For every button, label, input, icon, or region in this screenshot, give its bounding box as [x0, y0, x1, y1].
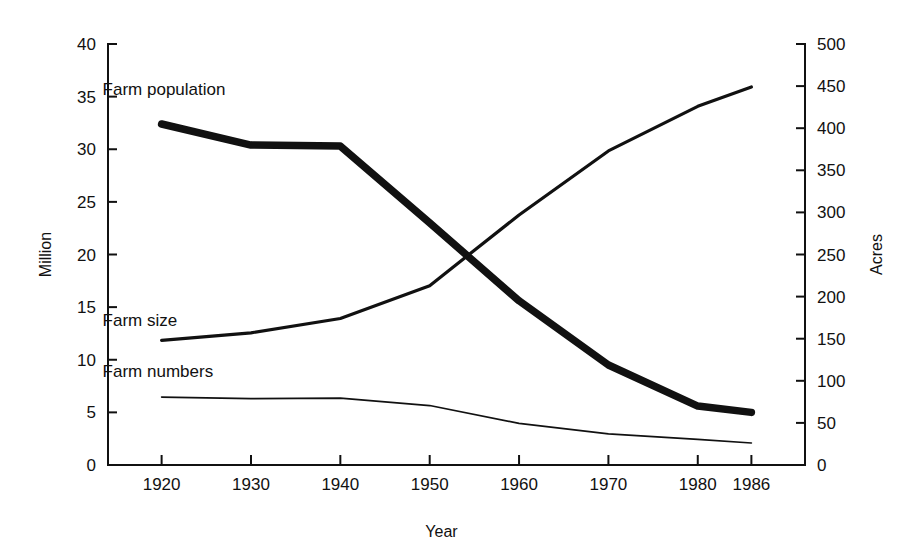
y-right-tick-label: 250	[817, 246, 845, 265]
x-tick-label: 1930	[232, 475, 270, 494]
x-tick-label: 1986	[732, 475, 770, 494]
series-label-farm-numbers: Farm numbers	[103, 362, 214, 381]
x-tick-label: 1940	[321, 475, 359, 494]
series-label-farm-size: Farm size	[103, 311, 178, 330]
y-left-tick-label: 30	[77, 140, 96, 159]
y-left-tick-label: 10	[77, 351, 96, 370]
series-label-farm-population: Farm population	[103, 80, 226, 99]
chart-canvas: 0510152025303540050100150200250300350400…	[0, 0, 924, 549]
y-right-tick-label: 400	[817, 119, 845, 138]
series-line-farm-numbers	[162, 397, 752, 443]
y-left-tick-label: 35	[77, 88, 96, 107]
y-right-tick-label: 50	[817, 414, 836, 433]
tick-labels-group: 0510152025303540050100150200250300350400…	[77, 35, 845, 494]
y-left-tick-label: 5	[87, 403, 96, 422]
y-right-tick-label: 150	[817, 330, 845, 349]
y-right-tick-label: 100	[817, 372, 845, 391]
y-left-tick-label: 20	[77, 246, 96, 265]
axis-frame	[108, 44, 805, 465]
y-right-tick-label: 450	[817, 77, 845, 96]
x-axis-title: Year	[425, 523, 458, 540]
farm-trends-chart: 0510152025303540050100150200250300350400…	[0, 0, 924, 549]
y-right-tick-label: 200	[817, 288, 845, 307]
x-tick-label: 1920	[143, 475, 181, 494]
y-right-axis-title: Acres	[868, 234, 885, 275]
x-tick-label: 1980	[679, 475, 717, 494]
x-tick-label: 1960	[500, 475, 538, 494]
series-line-farm-population	[162, 124, 752, 412]
series-line-farm-size	[162, 87, 752, 340]
y-left-tick-label: 40	[77, 35, 96, 54]
axes-group	[108, 44, 805, 465]
x-tick-label: 1970	[589, 475, 627, 494]
y-left-tick-label: 0	[87, 456, 96, 475]
series-group	[162, 87, 752, 443]
y-left-tick-label: 25	[77, 193, 96, 212]
y-left-axis-title: Million	[37, 232, 54, 277]
x-tick-label: 1950	[411, 475, 449, 494]
y-right-tick-label: 500	[817, 35, 845, 54]
y-left-tick-label: 15	[77, 298, 96, 317]
y-right-tick-label: 350	[817, 161, 845, 180]
y-right-tick-label: 300	[817, 203, 845, 222]
ticks-group	[108, 44, 805, 465]
y-right-tick-label: 0	[817, 456, 826, 475]
